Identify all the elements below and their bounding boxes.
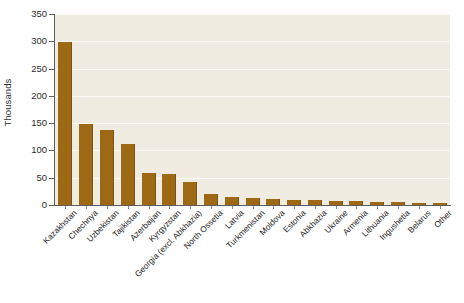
y-axis-tick-mark (49, 178, 54, 179)
bar[interactable] (183, 182, 197, 205)
y-axis-tick-mark (49, 123, 54, 124)
x-axis-tick-mark (377, 206, 378, 209)
x-axis-tick-label: Ingushetia (378, 209, 411, 242)
y-axis-tick-label: 200 (1, 91, 47, 101)
bar[interactable] (121, 144, 135, 205)
x-axis-tick-label: Azerbaijan (128, 209, 162, 243)
x-axis-tick-label: Armenia (342, 209, 370, 237)
x-axis-tick-mark (419, 206, 420, 209)
y-axis-tick-mark (49, 96, 54, 97)
bar[interactable] (162, 174, 176, 205)
x-axis-tick-label: Moldova (258, 209, 286, 237)
gridline (55, 123, 450, 124)
x-axis-tick-mark (356, 206, 357, 209)
bar-chart: Thousands 050100150200250300350 Kazakhst… (0, 0, 464, 303)
gridline (55, 69, 450, 70)
x-axis-tick-mark (190, 206, 191, 209)
y-axis-tick-mark (49, 14, 54, 15)
x-axis-tick-mark (440, 206, 441, 209)
plot-area (55, 14, 450, 205)
x-axis-tick-mark (336, 206, 337, 209)
y-axis-tick-label: 250 (1, 64, 47, 74)
bar[interactable] (204, 194, 218, 205)
bar[interactable] (142, 173, 156, 205)
x-axis-tick-mark (128, 206, 129, 209)
x-axis-tick-label: Turkmenistan (224, 209, 265, 250)
x-axis-tick-mark (273, 206, 274, 209)
x-axis-tick-label: Abkhazia (298, 209, 328, 239)
y-axis-title: Thousands (0, 0, 16, 205)
x-axis-tick-label: Other (432, 209, 453, 230)
x-axis-tick-mark (169, 206, 170, 209)
x-axis-tick-label: North Ossetia (182, 209, 224, 251)
x-axis-tick-label: Latvia (223, 209, 245, 231)
y-axis-tick-mark (49, 205, 54, 206)
x-axis-tick-mark (211, 206, 212, 209)
y-axis-tick-label: 50 (1, 173, 47, 183)
bar[interactable] (58, 42, 72, 205)
x-axis-tick-label: Uzbekistan (85, 209, 120, 244)
y-axis-tick-label: 350 (1, 9, 47, 19)
x-axis-tick-mark (294, 206, 295, 209)
y-axis-tick-mark (49, 41, 54, 42)
x-axis-tick-label: Ukraine (323, 209, 349, 235)
y-axis-tick-label: 300 (1, 37, 47, 47)
gridline (55, 178, 450, 179)
x-axis-tick-mark (232, 206, 233, 209)
y-axis-tick-label: 100 (1, 146, 47, 156)
x-axis-tick-label: Tajikistan (111, 209, 141, 239)
y-axis-tick-labels: 050100150200250300350 (0, 0, 47, 303)
bar[interactable] (246, 198, 260, 205)
bar[interactable] (225, 197, 239, 205)
y-axis-tick-mark (49, 69, 54, 70)
y-axis-title-label: Thousands (3, 79, 14, 127)
x-axis-tick-label: Kyrgyzstan (148, 209, 183, 244)
x-axis-tick-label: Estonia (282, 209, 307, 234)
gridline (55, 41, 450, 42)
gridline (55, 150, 450, 151)
x-axis-tick-label: Chechnya (67, 209, 99, 241)
x-axis-tick-mark (149, 206, 150, 209)
x-axis-tick-mark (86, 206, 87, 209)
y-axis-line (54, 14, 55, 206)
x-axis-tick-mark (107, 206, 108, 209)
gridline (55, 96, 450, 97)
y-axis-tick-label: 150 (1, 118, 47, 128)
x-axis-tick-mark (315, 206, 316, 209)
bar[interactable] (79, 124, 93, 205)
y-axis-tick-mark (49, 150, 54, 151)
y-axis-tick-label: 0 (1, 200, 47, 210)
x-axis-tick-label: Belarus (406, 209, 432, 235)
x-axis-tick-label: Kazakhstan (42, 209, 79, 246)
x-axis-tick-label: Lithuania (361, 209, 391, 239)
x-axis-tick-mark (65, 206, 66, 209)
bar[interactable] (100, 130, 114, 205)
x-axis-tick-mark (398, 206, 399, 209)
x-axis-tick-mark (253, 206, 254, 209)
gridline (55, 14, 450, 15)
x-axis-tick-label: Georgia (excl. Abkhazia) (133, 209, 203, 279)
